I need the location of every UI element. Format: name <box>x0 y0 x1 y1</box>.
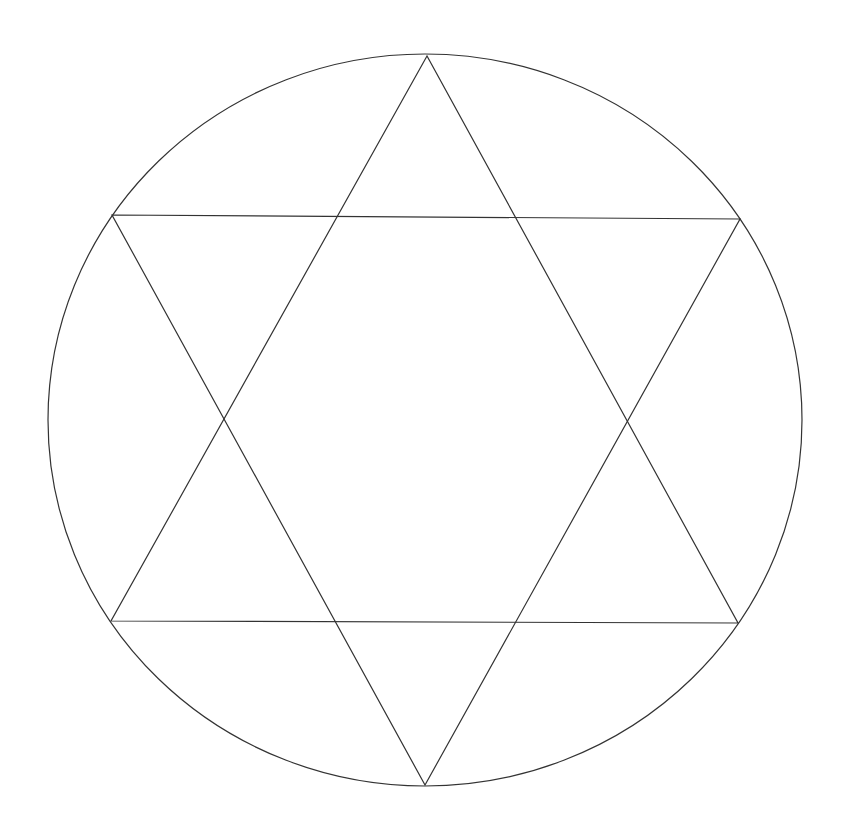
upward-triangle <box>111 56 738 623</box>
downward-triangle <box>112 215 740 785</box>
hexagram-drawing <box>0 0 859 823</box>
diagram-canvas <box>0 0 859 823</box>
outer-circle <box>48 54 802 786</box>
